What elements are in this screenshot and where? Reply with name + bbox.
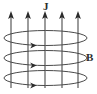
current-arrow-5 <box>75 11 81 88</box>
current-arrow-3 <box>42 11 48 88</box>
current-label: J <box>43 0 49 12</box>
current-arrow-4 <box>59 11 65 88</box>
current-arrow-2 <box>25 11 31 88</box>
current-arrows <box>8 11 81 88</box>
current-arrow-1 <box>8 11 14 88</box>
physics-figure: J B <box>0 0 97 94</box>
magnetic-field-label: B <box>86 51 94 63</box>
current-magnetic-field-svg: J B <box>0 0 97 94</box>
